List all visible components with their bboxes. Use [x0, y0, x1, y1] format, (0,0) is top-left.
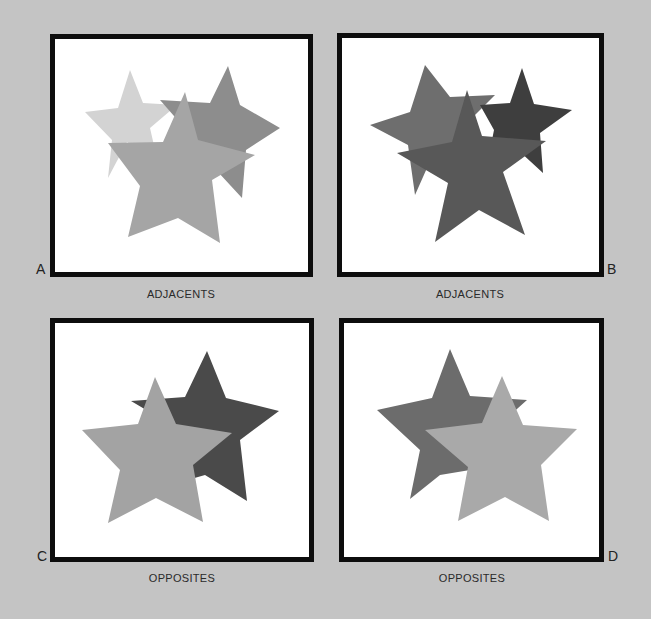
- panel-letter-b: B: [607, 262, 616, 276]
- panel-d-stars: [344, 323, 599, 557]
- panel-caption-b: ADJACENTS: [370, 288, 570, 300]
- panel-caption-a: ADJACENTS: [81, 288, 281, 300]
- panel-a: [50, 34, 313, 277]
- panel-letter-a: A: [36, 262, 45, 276]
- panel-c-stars: [55, 323, 309, 557]
- panel-caption-d: OPPOSITES: [372, 572, 572, 584]
- panel-letter-c: C: [37, 549, 47, 563]
- panel-a-stars: [55, 39, 308, 272]
- panel-d: [339, 318, 604, 562]
- panel-letter-d: D: [608, 549, 618, 563]
- panel-b-stars: [342, 38, 599, 272]
- panel-b: [337, 33, 604, 277]
- panel-caption-c: OPPOSITES: [82, 572, 282, 584]
- panel-c: [50, 318, 314, 562]
